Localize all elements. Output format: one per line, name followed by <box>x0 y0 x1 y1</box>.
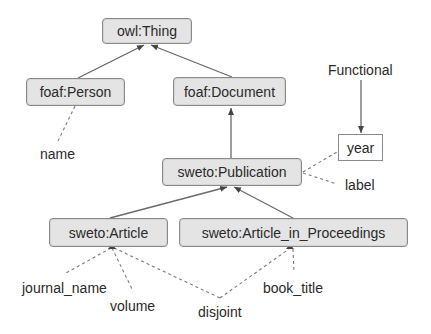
label-label: label <box>345 178 375 192</box>
label-disjoint: disjoint <box>198 305 242 319</box>
edge-aip-booktitle <box>293 249 294 273</box>
node-sweto-publication[interactable]: sweto:Publication <box>162 158 302 186</box>
node-foaf-document[interactable]: foaf:Document <box>173 77 286 106</box>
label-book-title: book_title <box>263 281 323 295</box>
label-name: name <box>40 147 75 161</box>
edge-person-thing <box>78 45 144 78</box>
label-functional: Functional <box>328 63 393 77</box>
edge-person-name <box>58 106 75 141</box>
label-volume: volume <box>110 299 155 313</box>
edge-document-thing <box>151 45 232 77</box>
edge-article-publication <box>110 187 227 218</box>
edge-publication-label <box>303 173 337 184</box>
edge-aip-publication <box>234 187 293 218</box>
edge-article-disjoint <box>114 248 220 298</box>
node-foaf-person[interactable]: foaf:Person <box>26 78 125 106</box>
label-journal-name: journal_name <box>22 281 107 295</box>
node-sweto-article-in-proceedings[interactable]: sweto:Article_in_Proceedings <box>179 218 408 247</box>
node-sweto-article[interactable]: sweto:Article <box>49 218 168 247</box>
node-owl-thing[interactable]: owl:Thing <box>102 18 192 44</box>
edge-article-volume <box>112 248 133 291</box>
edge-publication-year <box>303 152 337 172</box>
node-year[interactable]: year <box>338 134 383 161</box>
edge-article-journal <box>66 248 111 273</box>
